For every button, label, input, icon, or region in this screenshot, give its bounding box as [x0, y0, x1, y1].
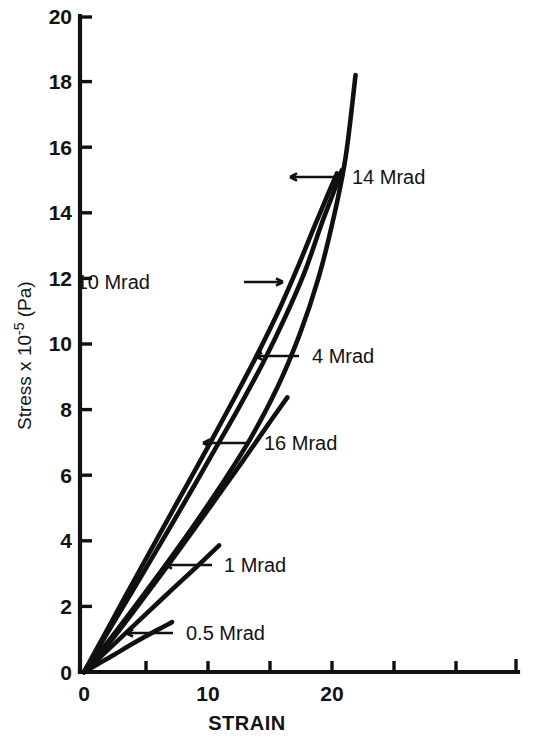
y-tick-label-4: 4 [60, 529, 72, 552]
curve-4-mrad [84, 75, 356, 672]
y-tick-label-14: 14 [49, 201, 73, 224]
data-curves [84, 75, 356, 672]
annotation-1-mrad-text: 1 Mrad [224, 554, 286, 576]
annotation-05-mrad: 0.5 Mrad [126, 622, 265, 644]
arrow-icon [244, 278, 283, 285]
y-axis-title-text: Stress x 10-5 (Pa) [11, 281, 35, 430]
arrow-icon [203, 439, 250, 446]
y-axis-title-exponent: -5 [11, 322, 27, 335]
y-axis-title-suffix: (Pa) [14, 281, 35, 322]
y-tick-label-0: 0 [60, 661, 72, 684]
stress-strain-figure: Stress x 10-5 (Pa) 0 2 4 [0, 0, 541, 740]
y-tick-label-6: 6 [60, 464, 72, 487]
y-tick-label-10: 10 [49, 332, 72, 355]
annotation-14-mrad-text: 14 Mrad [352, 166, 425, 188]
x-axis-tick-labels: 0 10 20 [78, 682, 344, 705]
y-tick-label-12: 12 [49, 267, 72, 290]
x-axis-title: STRAIN [208, 712, 285, 734]
y-axis-title: Stress x 10-5 (Pa) [11, 281, 35, 430]
y-tick-label-18: 18 [49, 70, 73, 93]
annotation-4-mrad-text: 4 Mrad [312, 345, 374, 367]
annotation-1-mrad: 1 Mrad [165, 554, 286, 576]
y-tick-label-16: 16 [49, 136, 72, 159]
annotation-16-mrad-text: 16 Mrad [264, 432, 337, 454]
series-annotations: 14 Mrad10 Mrad4 Mrad16 Mrad1 Mrad0.5 Mra… [77, 166, 426, 644]
axes [80, 16, 518, 672]
arrow-icon [165, 561, 212, 568]
annotation-14-mrad: 14 Mrad [290, 166, 425, 188]
annotation-4-mrad: 4 Mrad [255, 345, 374, 367]
x-tick-label-10: 10 [196, 682, 219, 705]
x-tick-label-0: 0 [78, 682, 90, 705]
arrow-icon [290, 173, 337, 180]
annotation-10-mrad-text: 10 Mrad [77, 271, 150, 293]
chart-svg: Stress x 10-5 (Pa) 0 2 4 [0, 0, 541, 740]
x-tick-label-20: 20 [320, 682, 343, 705]
y-tick-label-20: 20 [49, 5, 72, 28]
annotation-05-mrad-text: 0.5 Mrad [186, 622, 265, 644]
y-axis-tick-labels: 0 2 4 6 8 10 12 14 16 18 20 [49, 5, 73, 684]
curve-14-mrad [84, 173, 337, 672]
y-tick-label-2: 2 [60, 595, 72, 618]
y-tick-label-8: 8 [60, 398, 72, 421]
annotation-10-mrad: 10 Mrad [77, 271, 283, 293]
y-axis-title-prefix: Stress x 10 [14, 335, 35, 430]
